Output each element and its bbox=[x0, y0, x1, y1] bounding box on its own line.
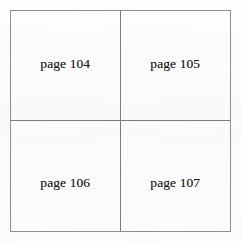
grid-cell-page-104[interactable]: page 104 bbox=[11, 11, 121, 121]
grid-cell-page-105[interactable]: page 105 bbox=[121, 11, 231, 121]
grid-cell-label: page 105 bbox=[150, 57, 200, 71]
page-grid: page 104 page 105 page 106 page 107 bbox=[10, 10, 231, 232]
page-root: page 104 page 105 page 106 page 107 bbox=[0, 0, 241, 241]
grid-cell-page-107[interactable]: page 107 bbox=[121, 121, 231, 231]
grid-cell-label: page 106 bbox=[40, 176, 90, 190]
grid-cell-page-106[interactable]: page 106 bbox=[11, 121, 121, 231]
grid-cell-label: page 107 bbox=[150, 176, 200, 190]
grid-cell-label: page 104 bbox=[40, 57, 90, 71]
